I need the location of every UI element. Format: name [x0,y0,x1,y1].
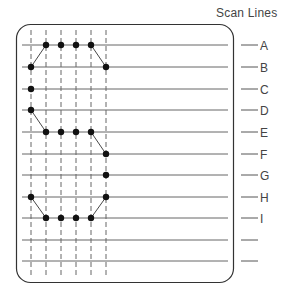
pixel-dot [73,42,79,48]
scan-line-diagram: ABCDEFGHI [0,0,283,291]
pixel-dot [88,129,94,135]
pixel-dot [73,215,79,221]
scan-line-label: H [260,191,269,205]
connector-line [91,197,106,218]
scan-line-label: B [260,61,268,75]
pixel-dot [58,129,64,135]
scan-line-label: G [260,169,269,183]
connector-line [31,197,46,218]
pixel-dot [28,86,34,92]
scan-line-rows [22,45,228,261]
connector-line [91,45,106,67]
pixel-dot [28,194,34,200]
scan-line-label: I [260,212,263,226]
scan-line-label: A [260,39,268,53]
connector-line [31,110,46,132]
scan-line-label: F [260,148,267,162]
pixel-dot [58,215,64,221]
scan-line-label: C [260,83,269,97]
pixel-dot [103,151,109,157]
pixel-dot [28,107,34,113]
pixel-dot [73,129,79,135]
pixel-dot [103,172,109,178]
pixel-dot [28,64,34,70]
connector-line [91,132,106,154]
pixel-dot [103,64,109,70]
pixel-dot [58,42,64,48]
connector-line [31,45,46,67]
pixel-dot [103,194,109,200]
scan-line-label: D [260,104,269,118]
pixel-dot [43,129,49,135]
pixel-dot [88,42,94,48]
scan-line-labels: ABCDEFGHI [241,39,269,262]
pixel-dot [43,42,49,48]
pixel-dot [88,215,94,221]
scan-line-label: E [260,126,268,140]
pixel-dot [43,215,49,221]
